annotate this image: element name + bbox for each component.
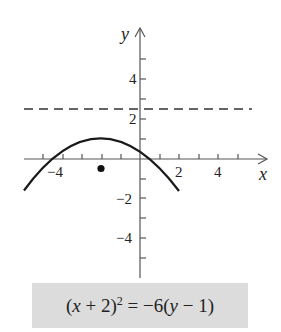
x-axis-label: x <box>258 164 267 184</box>
equation-caption-box: (x + 2)2 = −6(y − 1) <box>32 283 248 328</box>
x-tick-label-neg4: −4 <box>47 164 63 180</box>
equation-text: (x + 2)2 = −6(y − 1) <box>66 295 214 317</box>
x-tick-label-2: 2 <box>175 164 183 180</box>
focus-point <box>97 165 104 172</box>
x-tick-label-4: 4 <box>214 164 222 180</box>
y-tick-label-4: 4 <box>129 71 137 87</box>
y-tick-label-neg2: −2 <box>116 191 132 207</box>
y-tick-label-2: 2 <box>129 111 137 127</box>
y-axis-label: y <box>119 24 129 44</box>
y-tick-label-neg4: −4 <box>116 230 132 246</box>
